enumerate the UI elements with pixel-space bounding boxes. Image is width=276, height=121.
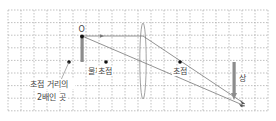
object-point-label: O: [79, 25, 85, 34]
lens-diagram: O 물체 초점 초점 초점 거리의 2배인 곳 상: [0, 0, 276, 121]
image-arrowhead: [231, 93, 237, 100]
image-label: 상: [239, 73, 247, 83]
focus-right-point: [178, 60, 182, 64]
focus-left-label: 초점: [98, 66, 112, 76]
object-arrow: [81, 38, 84, 62]
two-f-leader: [61, 62, 69, 80]
ray-arrow-icon: [240, 100, 245, 104]
image-arrow: [233, 62, 236, 94]
focus-left-point: [104, 60, 108, 64]
focus-right-label: 초점: [173, 66, 187, 76]
object-point-o: [80, 35, 84, 39]
two-f-label-line1: 초점 거리의: [30, 79, 68, 89]
ray-arrow-icon: [100, 34, 104, 37]
two-f-label-line2: 2배인 곳: [37, 92, 66, 102]
